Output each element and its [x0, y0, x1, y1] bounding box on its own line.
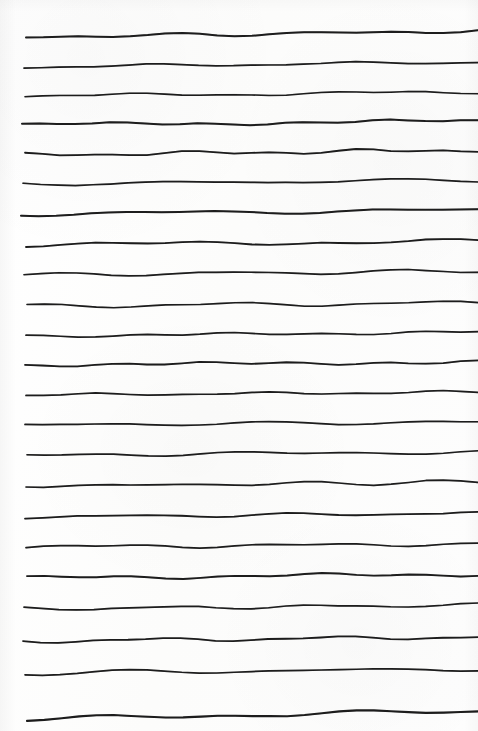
- ruled-line: [26, 543, 478, 548]
- ruled-line: [24, 270, 478, 276]
- ruled-line: [26, 480, 478, 487]
- ruled-lines-paths: [21, 30, 478, 721]
- ruled-line: [27, 451, 478, 456]
- ruled-lines-group: [0, 0, 478, 731]
- ruled-line-ink-overlay: [26, 239, 478, 247]
- ruled-line: [25, 92, 478, 97]
- scanned-page: [0, 0, 478, 731]
